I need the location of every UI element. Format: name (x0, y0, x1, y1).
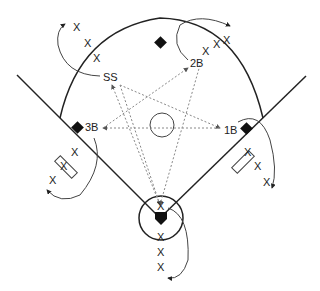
player-marker: X (213, 38, 221, 50)
position-label-3b: 3B (85, 121, 98, 133)
throw-paths (103, 65, 220, 205)
player-marker: X (254, 160, 262, 172)
first-base (240, 122, 253, 135)
player-marker: X (244, 146, 252, 158)
player-marker: X (93, 52, 101, 64)
player-marker: X (157, 246, 165, 258)
second-base (154, 36, 167, 49)
player-marker: X (71, 146, 79, 158)
player-marker: X (73, 21, 81, 33)
position-label-1b: 1B (224, 124, 237, 136)
home-plate (155, 212, 167, 225)
position-label-2b: 2B (190, 57, 203, 69)
player-marker: X (157, 200, 165, 212)
player-marker: X (157, 261, 165, 273)
player-marker: X (60, 160, 68, 172)
player-marker: X (49, 174, 57, 186)
player-marker: X (263, 176, 271, 188)
pitchers-mound (150, 113, 174, 137)
player-marker: X (157, 231, 165, 243)
baseball-field-diagram: SS 2B 3B 1B X X X X X X X X X X X X X X … (0, 0, 320, 291)
player-marker: X (223, 34, 231, 46)
player-marker: X (84, 37, 92, 49)
player-marker: X (202, 45, 210, 57)
position-label-ss: SS (103, 71, 118, 83)
